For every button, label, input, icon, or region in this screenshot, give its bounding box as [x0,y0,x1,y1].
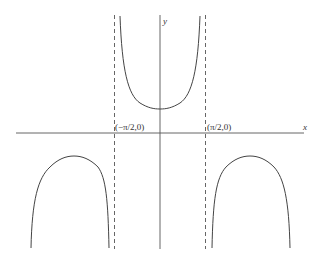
right-branch-curve [212,156,290,248]
left-point-label: (−π/2,0) [115,122,144,132]
secant-graph: y x (−π/2,0) (π/2,0) [0,0,321,265]
x-axis-label: x [302,122,307,132]
left-branch-curve [31,156,109,248]
right-point-label: (π/2,0) [207,122,231,132]
y-axis-label: y [162,16,167,26]
